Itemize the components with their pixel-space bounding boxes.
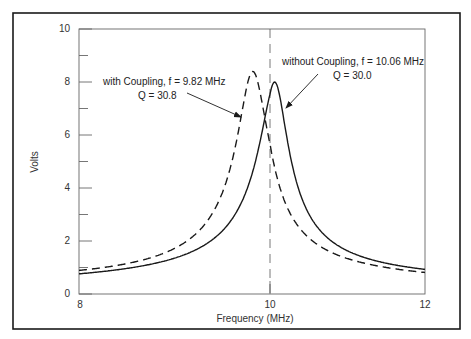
annotation-arrow-with-coupling [187,93,241,117]
y-tick-label-4: 4 [64,182,70,193]
x-axis-title: Frequency (MHz) [216,313,293,324]
x-tick-label-8: 8 [77,299,83,310]
y-axis-ticks [79,29,92,294]
plot-area [79,29,425,294]
annotation-with-coupling-freq: with Coupling, f = 9.82 MHz [102,76,226,87]
annotation-arrow-without-coupling [286,74,318,108]
y-axis-title: Volts [29,151,40,173]
y-tick-label-2: 2 [64,235,70,246]
y-tick-label-10: 10 [59,23,71,34]
x-tick-label-10: 10 [264,299,276,310]
x-tick-label-12: 12 [419,299,431,310]
annotation-without-coupling-q: Q = 30.0 [333,70,372,81]
annotation-with-coupling-q: Q = 30.8 [138,90,177,101]
y-tick-label-0: 0 [64,288,70,299]
y-tick-label-8: 8 [64,76,70,87]
y-tick-label-6: 6 [64,129,70,140]
chart-figure: 0 2 4 6 8 10 8 10 12 Frequency (MHz) Vol… [0,0,471,339]
series-without-coupling [79,82,425,274]
annotation-without-coupling-freq: without Coupling, f = 10.06 MHz [281,56,424,67]
